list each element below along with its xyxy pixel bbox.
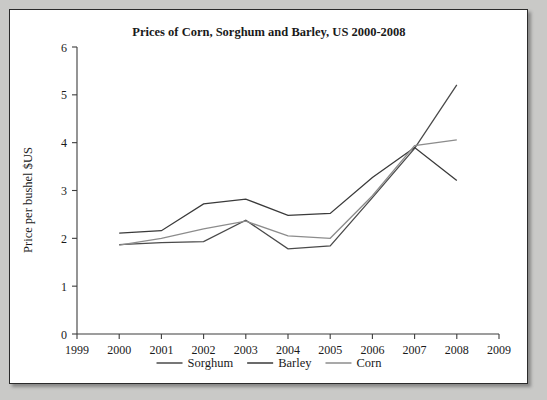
legend-label-corn: Corn [356, 356, 382, 370]
x-tick-label: 2002 [192, 343, 216, 357]
x-tick-label: 1999 [65, 343, 89, 357]
y-tick-label: 0 [61, 328, 67, 342]
chart-title: Prices of Corn, Sorghum and Barley, US 2… [132, 25, 405, 39]
series-container [119, 85, 457, 249]
x-tick-label: 2006 [360, 343, 384, 357]
y-tick-label: 4 [61, 136, 67, 150]
y-tick-label: 3 [61, 184, 67, 198]
y-axis: 0123456 [61, 41, 77, 342]
x-tick-label: 2005 [318, 343, 342, 357]
y-axis-label: Price per bushel $US [21, 147, 35, 253]
series-line-corn [119, 140, 457, 245]
x-axis: 1999200020012002200320042005200620072008… [65, 334, 511, 357]
legend-label-barley: Barley [278, 356, 312, 370]
line-chart: Prices of Corn, Sorghum and Barley, US 2… [10, 10, 529, 383]
x-tick-label: 2000 [107, 343, 131, 357]
series-line-sorghum [119, 85, 457, 249]
y-tick-label: 6 [61, 41, 67, 55]
y-tick-label: 2 [61, 232, 67, 246]
chart-legend: SorghumBarleyCorn [157, 356, 383, 370]
series-line-barley [119, 147, 457, 233]
x-tick-label: 2004 [276, 343, 300, 357]
chart-card: Prices of Corn, Sorghum and Barley, US 2… [9, 9, 528, 384]
x-tick-label: 2003 [234, 343, 258, 357]
x-tick-label: 2008 [445, 343, 469, 357]
legend-label-sorghum: Sorghum [188, 356, 234, 370]
x-tick-label: 2001 [149, 343, 173, 357]
x-tick-label: 2009 [487, 343, 511, 357]
y-tick-label: 1 [61, 280, 67, 294]
y-tick-label: 5 [61, 88, 67, 102]
x-tick-label: 2007 [403, 343, 427, 357]
